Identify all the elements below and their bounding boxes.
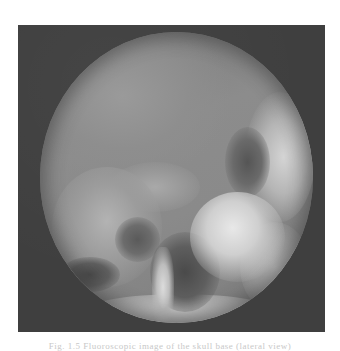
right-dark-cavity <box>225 127 270 197</box>
xray-circular-field <box>40 32 313 323</box>
figure-caption: Fig. 1.5 Fluoroscopic image of the skull… <box>0 341 340 351</box>
bright-vertical-streak <box>152 247 174 323</box>
bright-central-bone <box>190 192 285 282</box>
left-air-cavity-lower <box>60 257 120 292</box>
xray-figure-frame <box>18 25 325 332</box>
